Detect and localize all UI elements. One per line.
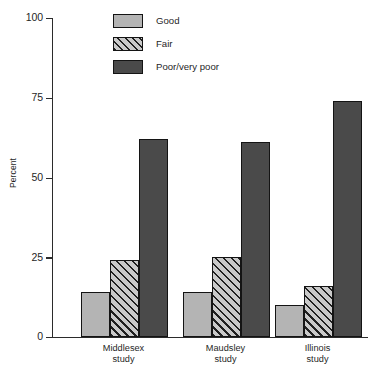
legend-swatch-fair-icon	[113, 37, 143, 51]
group-label-maudsley: Maudsley study	[183, 343, 268, 366]
y-tick-label-25: 25	[32, 252, 43, 263]
y-tick-label-100: 100	[26, 12, 43, 23]
legend-label-fair: Fair	[156, 37, 173, 51]
bar-group-illinois	[275, 18, 360, 337]
x-axis-line	[52, 337, 368, 338]
group-label-line2: study	[81, 354, 166, 365]
legend-swatch-poor-icon	[113, 60, 143, 74]
bar-chart: 100 75 50 25 0 Percent Middlesex study M…	[0, 0, 379, 373]
bar-maudsley-poor	[241, 142, 270, 337]
group-label-line1: Maudsley	[206, 343, 245, 353]
group-label-line1: Illinois	[305, 343, 331, 353]
bar-illinois-fair	[304, 286, 333, 337]
bar-maudsley-fair	[212, 257, 241, 337]
bar-maudsley-good	[183, 292, 212, 337]
group-label-illinois: Illinois study	[275, 343, 360, 366]
group-label-line2: study	[275, 354, 360, 365]
legend-label-poor: Poor/very poor	[156, 60, 219, 74]
group-label-line1: Middlesex	[103, 343, 144, 353]
bar-middlesex-poor	[139, 139, 168, 337]
hatch-fill	[114, 38, 142, 50]
bar-middlesex-fair	[110, 260, 139, 337]
y-tick-label-75: 75	[32, 92, 43, 103]
y-tick-label-0: 0	[37, 331, 43, 342]
legend-swatch-good-icon	[113, 14, 143, 28]
group-label-middlesex: Middlesex study	[81, 343, 166, 366]
bar-middlesex-good	[81, 292, 110, 337]
hatch-fill	[213, 258, 240, 336]
y-axis-title: Percent	[8, 143, 18, 203]
group-label-line2: study	[183, 354, 268, 365]
bar-illinois-poor	[333, 101, 362, 337]
hatch-fill	[305, 287, 332, 336]
bar-illinois-good	[275, 305, 304, 337]
legend-label-good: Good	[156, 14, 179, 28]
y-tick-label-50: 50	[32, 172, 43, 183]
hatch-fill	[111, 261, 138, 336]
